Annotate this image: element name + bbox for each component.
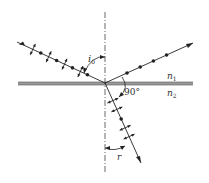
polarization-dot (71, 66, 75, 70)
polarization-dot (138, 65, 142, 69)
polarization-dot (39, 51, 43, 55)
medium-1-label: n1 (167, 71, 177, 82)
medium-2-label: n2 (167, 88, 177, 99)
refracted-polarization-marks (107, 98, 134, 139)
reflected-ray (105, 43, 193, 83)
arrowhead-icon (136, 156, 141, 163)
incident-polarization-marks (30, 44, 89, 77)
right-angle-label: 90° (124, 87, 140, 97)
arrowhead-icon (100, 55, 105, 59)
polarization-dot (165, 53, 169, 57)
polarization-dot (152, 59, 156, 63)
arrowhead-icon (186, 43, 193, 48)
arrowhead-icon (105, 146, 110, 150)
polarization-dot (119, 117, 123, 121)
refraction-angle-label: r (117, 152, 122, 162)
brewster-diagram: i0 90° n1 n2 r (0, 0, 209, 183)
polarization-dot (86, 73, 90, 77)
polarization-dot (125, 71, 129, 75)
polarization-dot (55, 59, 59, 63)
incidence-angle-label: i0 (88, 53, 95, 65)
